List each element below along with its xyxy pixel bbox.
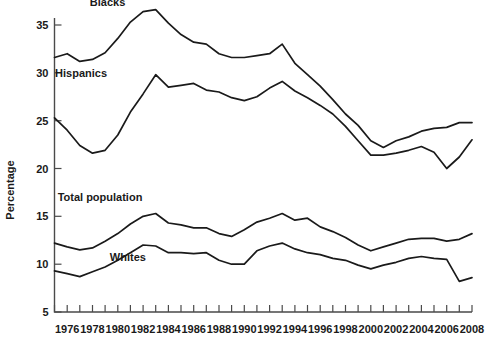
chart-axis-lines xyxy=(55,18,473,312)
ticks-group xyxy=(55,25,473,312)
x-axis-tick-label: 1976 xyxy=(55,323,79,335)
x-axis-tick-label: 1980 xyxy=(106,323,130,335)
y-axis-tick-label: 25 xyxy=(36,115,48,127)
x-axis-tick-label: 1978 xyxy=(80,323,104,335)
chart-figure: 5101520253035197619781980198219841986198… xyxy=(0,0,497,347)
series-line-hispanics xyxy=(55,75,473,169)
x-axis-tick-label: 2000 xyxy=(359,323,383,335)
x-axis-tick-label: 1992 xyxy=(257,323,281,335)
y-axis-title-group: Percentage xyxy=(4,160,16,219)
series-label-whites: Whites xyxy=(110,251,146,263)
x-axis-tick-label: 1984 xyxy=(156,323,181,335)
x-axis-tick-label: 2008 xyxy=(460,323,484,335)
x-axis-tick-label: 2004 xyxy=(409,323,434,335)
series-label-hispanics: Hispanics xyxy=(55,67,107,79)
series-label-total-population: Total population xyxy=(58,191,143,203)
y-axis-tick-label: 30 xyxy=(36,67,48,79)
y-axis-tick-label: 5 xyxy=(42,306,48,318)
y-axis-tick-label: 10 xyxy=(36,258,48,270)
y-axis-tick-label: 35 xyxy=(36,19,48,31)
series-line-blacks xyxy=(55,10,473,148)
x-axis-tick-label: 1988 xyxy=(207,323,231,335)
x-axis-tick-label: 1982 xyxy=(131,323,155,335)
series-lines-group xyxy=(55,10,473,282)
series-line-total-population xyxy=(55,214,473,251)
series-label-blacks: Blacks xyxy=(90,0,125,8)
y-axis-title: Percentage xyxy=(4,160,16,219)
y-axis-tick-label: 15 xyxy=(36,210,48,222)
x-axis-tick-label: 1994 xyxy=(283,323,308,335)
line-chart-canvas: 5101520253035197619781980198219841986198… xyxy=(0,0,497,347)
x-axis-tick-label: 2002 xyxy=(384,323,408,335)
x-axis-tick-label: 2006 xyxy=(434,323,458,335)
x-axis-tick-label: 1996 xyxy=(308,323,332,335)
axes-group xyxy=(55,18,473,312)
x-axis-tick-label: 1986 xyxy=(181,323,205,335)
x-axis-tick-label: 1998 xyxy=(333,323,357,335)
y-axis-tick-label: 20 xyxy=(36,163,48,175)
x-axis-tick-label: 1990 xyxy=(232,323,256,335)
